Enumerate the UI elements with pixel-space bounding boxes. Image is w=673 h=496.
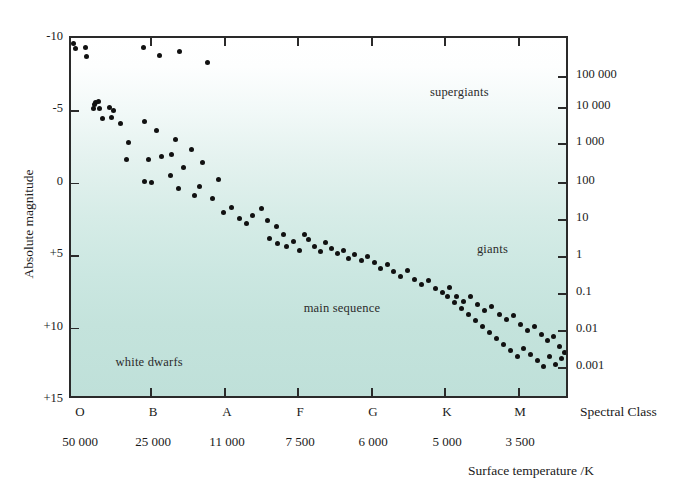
data-point [480, 324, 485, 329]
data-point [559, 356, 564, 361]
right-axis-tick-label: 100 000 [576, 67, 617, 82]
data-point [96, 99, 101, 104]
data-point [126, 140, 131, 145]
temperature-axis-title: Surface temperature /K [468, 463, 594, 479]
right-axis-tick-label: 0.001 [576, 358, 604, 373]
data-point [433, 286, 438, 291]
data-point [461, 299, 466, 304]
data-point [192, 193, 197, 198]
data-point [459, 306, 464, 311]
left-axis-tick-label: -10 [46, 29, 63, 44]
data-point [142, 119, 147, 124]
temperature-label: 3 500 [505, 434, 534, 450]
data-point [297, 248, 302, 253]
temperature-label: 5 000 [432, 434, 461, 450]
spectral-class-tick-labels: OBAFGKM [0, 404, 673, 424]
data-point [237, 216, 242, 221]
left-axis-tick-label: +10 [43, 318, 63, 333]
spectral-class-label: B [149, 404, 158, 420]
spectral-class-label: M [514, 404, 526, 420]
data-point [551, 334, 556, 339]
data-point [306, 237, 311, 242]
annotation-supergiants: supergiants [430, 85, 489, 100]
data-point [440, 290, 445, 295]
data-point [372, 260, 377, 265]
right-axis-tick-label: 100 [576, 173, 595, 188]
data-point [229, 205, 234, 210]
data-point [346, 256, 351, 261]
right-axis-tick-label: 10 [576, 210, 589, 225]
left-axis-tick-label: -5 [53, 101, 63, 116]
axis-tick [71, 255, 79, 257]
data-point [197, 184, 202, 189]
axis-tick [558, 219, 566, 221]
left-axis-tick-label: +5 [50, 246, 63, 261]
data-point [426, 278, 431, 283]
data-point [159, 154, 164, 159]
data-point [528, 352, 533, 357]
data-point [365, 254, 370, 259]
right-axis-tick-label: 0.1 [576, 284, 592, 299]
axis-tick [71, 110, 79, 112]
axis-tick [444, 38, 446, 46]
data-point [149, 180, 154, 185]
axis-tick [558, 182, 566, 184]
temperature-label: 25 000 [135, 434, 171, 450]
axis-tick [371, 38, 373, 46]
temperature-tick-labels: 50 00025 00011 0007 5006 0005 0003 500 [0, 434, 673, 454]
data-point [515, 354, 520, 359]
data-point [359, 258, 364, 263]
right-axis-tick-label: 1 [576, 247, 582, 262]
axis-tick [371, 388, 373, 396]
spectral-class-label: G [368, 404, 377, 420]
data-point [545, 338, 550, 343]
data-point [525, 328, 530, 333]
data-point [275, 241, 280, 246]
data-point [141, 45, 146, 50]
data-point [535, 358, 540, 363]
data-point [200, 160, 205, 165]
annotation-main-sequence: main sequence [304, 301, 381, 316]
data-point [547, 354, 552, 359]
axis-tick [71, 183, 79, 185]
data-point [398, 274, 403, 279]
data-point [267, 236, 272, 241]
data-point [378, 266, 383, 271]
axis-tick [518, 388, 520, 396]
axis-tick [558, 256, 566, 258]
spectral-class-axis-title: Spectral Class [580, 404, 657, 420]
data-point [250, 213, 255, 218]
temperature-label: 11 000 [209, 434, 244, 450]
annotation-giants: giants [477, 242, 508, 257]
data-point [302, 232, 307, 237]
axis-tick [297, 38, 299, 46]
right-axis-tick-label: 1 000 [576, 134, 604, 149]
data-point [557, 344, 562, 349]
data-point [176, 186, 181, 191]
data-point [335, 251, 340, 256]
data-point [539, 332, 544, 337]
data-point [284, 244, 289, 249]
temperature-label: 7 500 [285, 434, 314, 450]
data-point [566, 341, 569, 346]
data-point [84, 54, 89, 59]
axis-tick [71, 328, 79, 330]
data-point [181, 165, 186, 170]
data-point [168, 173, 173, 178]
data-point [341, 248, 346, 253]
axis-tick [444, 388, 446, 396]
spectral-class-label: F [296, 404, 303, 420]
data-point [541, 364, 546, 369]
data-point [391, 269, 396, 274]
data-point [412, 277, 417, 282]
axis-tick [150, 388, 152, 396]
data-point [210, 196, 215, 201]
left-axis-title: Absolute magnitude [21, 134, 37, 314]
data-point [447, 285, 452, 290]
data-point [497, 312, 502, 317]
data-point [157, 53, 162, 58]
data-point [454, 294, 459, 299]
data-point [466, 312, 471, 317]
axis-tick [297, 388, 299, 396]
spectral-class-label: O [75, 404, 84, 420]
